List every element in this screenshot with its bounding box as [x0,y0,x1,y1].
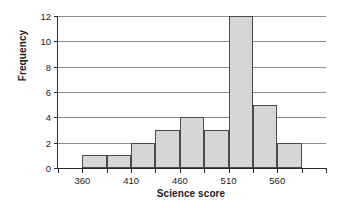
y-tick-mark [54,92,58,93]
y-tick-label: 6 [46,87,51,98]
gridline [58,41,326,42]
y-tick-mark [54,117,58,118]
plot-area: 024681012 360410460510560 [57,16,326,169]
y-axis-title: Frequency [17,0,28,116]
x-tick-mark [107,168,108,173]
gridline [58,16,326,17]
x-tick-mark [302,168,303,173]
x-tick-mark [131,168,132,173]
histogram-bar [229,16,253,168]
histogram-bar [277,143,301,168]
y-tick-label: 2 [46,137,51,148]
histogram-bar [82,155,106,168]
x-tick-label: 510 [221,175,237,186]
y-tick-mark [54,16,58,17]
x-tick-mark [82,168,83,173]
x-tick-mark [58,168,59,173]
x-tick-mark [204,168,205,173]
y-tick-mark [54,41,58,42]
y-tick-label: 4 [46,112,51,123]
x-tick-mark [253,168,254,173]
x-tick-label: 410 [123,175,139,186]
x-tick-label: 360 [74,175,90,186]
x-tick-label: 560 [269,175,285,186]
x-tick-mark [277,168,278,173]
y-tick-label: 0 [46,163,51,174]
histogram-bar [180,117,204,168]
x-tick-label: 460 [172,175,188,186]
y-tick-label: 12 [40,11,51,22]
histogram-figure: Frequency 024681012 360410460510560 Scie… [0,0,339,208]
x-tick-mark [229,168,230,173]
histogram-bar [155,130,179,168]
x-tick-mark [180,168,181,173]
histogram-bar [107,155,131,168]
x-tick-mark [155,168,156,173]
x-axis-title: Science score [57,188,325,199]
gridline [58,67,326,68]
histogram-bar [253,105,277,168]
y-tick-label: 10 [40,36,51,47]
x-tick-mark [326,168,327,173]
histogram-bar [204,130,228,168]
y-tick-mark [54,143,58,144]
y-tick-mark [54,67,58,68]
gridline [58,92,326,93]
y-tick-label: 8 [46,61,51,72]
histogram-bar [131,143,155,168]
